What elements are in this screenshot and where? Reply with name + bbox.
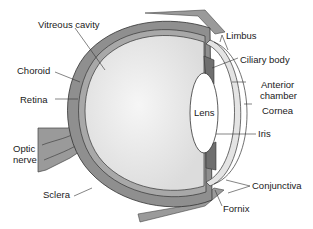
label-cornea: Cornea — [262, 105, 294, 116]
label-conjunctiva: Conjunctiva — [252, 180, 302, 191]
label-anterior-chamber-2: chamber — [260, 90, 297, 101]
label-ciliary-body: Ciliary body — [240, 54, 290, 65]
label-limbus: Limbus — [226, 30, 257, 41]
label-lens: Lens — [194, 107, 215, 118]
label-vitreous-cavity: Vitreous cavity — [38, 19, 100, 30]
label-optic-nerve-1: Optic — [13, 143, 35, 154]
label-sclera: Sclera — [43, 189, 71, 200]
label-retina: Retina — [20, 94, 48, 105]
label-choroid: Choroid — [17, 65, 50, 76]
label-anterior-chamber-1: Anterior — [261, 79, 294, 90]
eye-diagram: Vitreous cavity Choroid Retina Optic ner… — [0, 0, 313, 229]
label-iris: Iris — [258, 128, 271, 139]
label-optic-nerve-2: nerve — [13, 154, 37, 165]
label-fornix: Fornix — [223, 203, 250, 214]
